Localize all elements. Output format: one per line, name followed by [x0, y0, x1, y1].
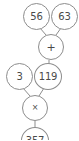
node-label: 357	[26, 136, 45, 141]
node-operator-plus[interactable]: +	[38, 34, 64, 60]
node-label: +	[46, 42, 55, 53]
node-operator-multiply[interactable]: ×	[22, 95, 48, 121]
node-label: 3	[16, 72, 22, 82]
node-label: ×	[32, 104, 39, 112]
expression-tree-diagram: 56 63 + 3 119 × 357	[0, 0, 79, 140]
node-label: 56	[30, 12, 42, 22]
node-operand-56[interactable]: 56	[23, 3, 50, 30]
node-operand-119[interactable]: 119	[34, 63, 62, 90]
node-operand-3[interactable]: 3	[6, 63, 33, 90]
node-label: 63	[58, 12, 70, 22]
node-operand-63[interactable]: 63	[51, 3, 78, 30]
node-label: 119	[39, 72, 58, 82]
